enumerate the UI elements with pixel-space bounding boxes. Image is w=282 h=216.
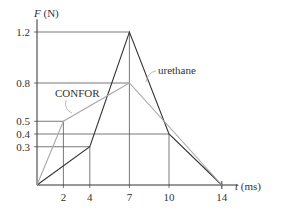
x-tick-label: 10 (164, 191, 176, 203)
urethane-leader-line (146, 71, 156, 82)
chart-svg: 0.30.40.50.81.22471014 urethaneCONFOR F … (0, 0, 282, 216)
reference-lines (34, 32, 169, 188)
confor-label: CONFOR (55, 87, 100, 99)
y-tick-label: 0.4 (16, 128, 30, 140)
annotations: urethaneCONFOR (55, 64, 196, 113)
y-tick-label: 0.5 (16, 115, 30, 127)
x-tick-label: 7 (127, 191, 133, 203)
y-tick-label: 0.3 (16, 141, 30, 153)
confor-leader-line (66, 100, 72, 113)
y-tick-label: 1.2 (16, 26, 30, 38)
y-tick-label: 0.8 (16, 77, 30, 89)
x-axis-label: t (ms) (235, 180, 261, 193)
x-tick-label: 14 (216, 191, 228, 203)
force-time-chart: 0.30.40.50.81.22471014 urethaneCONFOR F … (0, 0, 282, 216)
x-tick-label: 4 (87, 191, 93, 203)
x-tick-label: 2 (61, 191, 67, 203)
urethane-label: urethane (158, 64, 196, 76)
y-axis-label: F (N) (33, 7, 59, 20)
